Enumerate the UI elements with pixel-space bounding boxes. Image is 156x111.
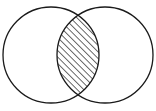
venn-diagram-canvas <box>0 0 156 111</box>
venn-diagram-figure <box>0 0 156 111</box>
